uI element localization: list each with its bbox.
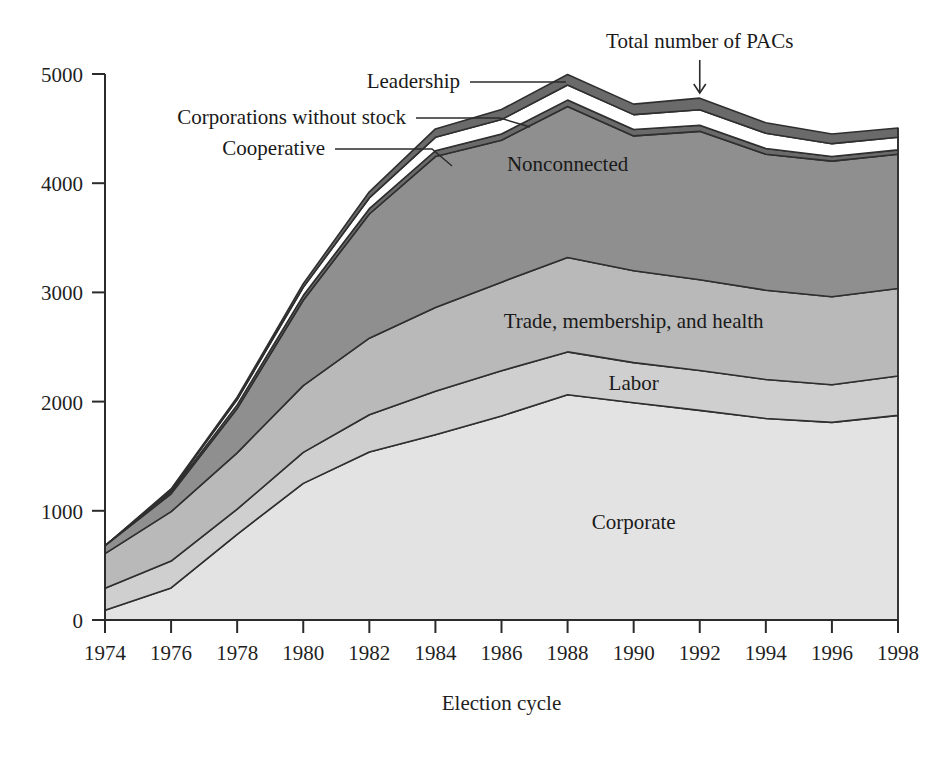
annotation-label-leadership: Leadership: [367, 69, 460, 93]
x-tick-label-1982: 1982: [348, 641, 390, 665]
chart-canvas: 0100020003000400050001974197619781980198…: [0, 0, 949, 758]
area-label-labor: Labor: [609, 371, 659, 395]
x-tick-label-1978: 1978: [216, 641, 258, 665]
x-tick-label-1996: 1996: [811, 641, 853, 665]
y-tick-label-2000: 2000: [41, 391, 83, 415]
annotation-label-cooperative: Cooperative: [222, 136, 325, 160]
area-label-corporate: Corporate: [592, 510, 676, 534]
x-tick-label-1994: 1994: [745, 641, 788, 665]
x-tick-label-1984: 1984: [414, 641, 457, 665]
pac-growth-area-chart: 0100020003000400050001974197619781980198…: [0, 0, 949, 758]
x-tick-label-1974: 1974: [84, 641, 127, 665]
annotation-label-corporations-without-stock: Corporations without stock: [177, 105, 406, 129]
area-label-trade-membership-and-health: Trade, membership, and health: [504, 309, 764, 333]
x-tick-label-1992: 1992: [679, 641, 721, 665]
y-tick-label-5000: 5000: [41, 63, 83, 87]
y-tick-label-1000: 1000: [41, 500, 83, 524]
x-tick-label-1990: 1990: [613, 641, 655, 665]
x-axis-title: Election cycle: [442, 691, 562, 715]
x-tick-label-1976: 1976: [150, 641, 192, 665]
annotation-label-total-number-of-pacs: Total number of PACs: [606, 29, 793, 53]
y-tick-label-0: 0: [73, 609, 84, 633]
y-tick-label-4000: 4000: [41, 172, 83, 196]
area-label-nonconnected: Nonconnected: [507, 152, 629, 176]
y-tick-label-3000: 3000: [41, 281, 83, 305]
x-tick-label-1988: 1988: [547, 641, 589, 665]
x-tick-label-1986: 1986: [481, 641, 523, 665]
x-tick-label-1998: 1998: [877, 641, 919, 665]
x-tick-label-1980: 1980: [282, 641, 324, 665]
